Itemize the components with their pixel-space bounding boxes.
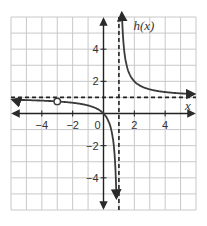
y-tick-label: −4 (86, 172, 99, 184)
y-tick-label: 2 (92, 75, 98, 87)
x-tick-label: −2 (66, 119, 79, 131)
curve-left-branch (13, 100, 117, 198)
x-tick-label: 2 (131, 119, 137, 131)
x-tick-label: −4 (36, 119, 49, 131)
function-graph: −4−22442−2−40h(x)x (0, 0, 207, 226)
origin-label: 0 (94, 119, 100, 131)
y-tick-label: −2 (86, 140, 99, 152)
x-tick-label: 4 (162, 119, 168, 131)
open-point-hole (54, 98, 60, 104)
function-label: h(x) (134, 18, 155, 33)
x-axis-label: x (184, 98, 191, 113)
y-tick-label: 4 (92, 43, 98, 55)
